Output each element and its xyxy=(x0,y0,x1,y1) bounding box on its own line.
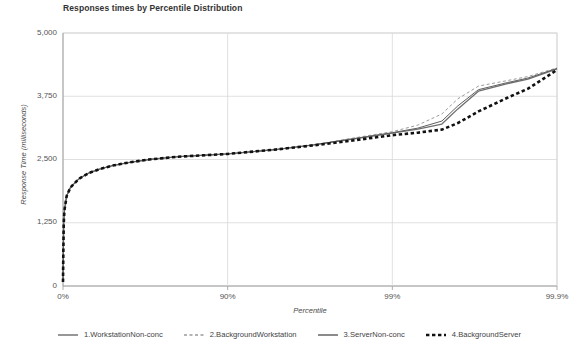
legend-item[interactable]: 2.BackgroundWorkstation xyxy=(183,330,297,339)
legend-item[interactable]: 3.ServerNon-conc xyxy=(317,330,405,339)
legend-line-icon xyxy=(183,331,205,339)
legend-line-icon xyxy=(317,331,339,339)
legend-line-icon xyxy=(425,331,447,339)
legend-item[interactable]: 1.WorkstationNon-conc xyxy=(57,330,163,339)
legend-label: 4.BackgroundServer xyxy=(452,330,521,339)
chart-container: Responses times by Percentile Distributi… xyxy=(0,0,578,360)
legend-label: 3.ServerNon-conc xyxy=(344,330,405,339)
legend-line-icon xyxy=(57,331,79,339)
legend-label: 2.BackgroundWorkstation xyxy=(210,330,297,339)
chart-legend: 1.WorkstationNon-conc2.BackgroundWorksta… xyxy=(0,330,578,339)
plot-area xyxy=(0,0,578,360)
legend-label: 1.WorkstationNon-conc xyxy=(84,330,163,339)
legend-item[interactable]: 4.BackgroundServer xyxy=(425,330,521,339)
